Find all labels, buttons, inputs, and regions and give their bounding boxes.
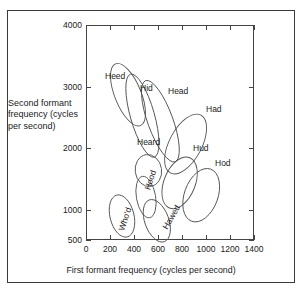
x-tick-label: 800 bbox=[175, 244, 189, 254]
vowel-formant-figure: Second formant frequency (cycles per sec… bbox=[0, 0, 306, 293]
y-axis-title: Second formant frequency (cycles per sec… bbox=[8, 98, 82, 132]
vowel-label-hid: Hid bbox=[140, 83, 153, 93]
y-tick bbox=[86, 87, 91, 88]
vowel-label-head: Head bbox=[168, 86, 188, 96]
y-tick bbox=[86, 210, 91, 211]
y-tick bbox=[249, 87, 254, 88]
x-tick bbox=[110, 235, 111, 240]
x-tick bbox=[206, 235, 207, 240]
y-tick bbox=[86, 240, 91, 241]
vowel-label-hod: Hod bbox=[215, 158, 231, 168]
y-tick bbox=[249, 240, 254, 241]
y-tick-label: 3000 bbox=[52, 82, 82, 92]
x-tick bbox=[182, 235, 183, 240]
x-tick bbox=[182, 25, 183, 30]
x-tick bbox=[230, 25, 231, 30]
x-tick-label: 1200 bbox=[221, 244, 240, 254]
y-tick bbox=[249, 148, 254, 149]
x-tick bbox=[158, 235, 159, 240]
x-tick-label: 600 bbox=[151, 244, 165, 254]
vowel-label-hud: Hud bbox=[193, 143, 209, 153]
x-tick-label: 1000 bbox=[197, 244, 216, 254]
vowel-label-heard: Heard bbox=[137, 137, 160, 147]
y-tick-label: 2000 bbox=[52, 143, 82, 153]
y-tick bbox=[249, 210, 254, 211]
y-tick bbox=[86, 25, 91, 26]
vowel-label-heed: Heed bbox=[105, 71, 125, 81]
x-tick bbox=[206, 25, 207, 30]
y-tick bbox=[249, 25, 254, 26]
x-tick bbox=[254, 235, 255, 240]
x-tick bbox=[110, 25, 111, 30]
x-tick bbox=[254, 25, 255, 30]
y-tick-label: 1000 bbox=[52, 205, 82, 215]
x-tick bbox=[134, 235, 135, 240]
x-tick bbox=[230, 235, 231, 240]
x-axis-title: First formant frequency (cycles per seco… bbox=[7, 265, 295, 275]
vowel-label-had: Had bbox=[206, 104, 222, 114]
x-tick-label: 0 bbox=[84, 244, 89, 254]
y-tick-label: 500 bbox=[52, 235, 82, 245]
y-tick-label: 4000 bbox=[52, 20, 82, 30]
x-tick bbox=[158, 25, 159, 30]
x-tick-label: 1400 bbox=[245, 244, 264, 254]
x-tick bbox=[134, 25, 135, 30]
x-tick-label: 200 bbox=[103, 244, 117, 254]
x-tick-label: 400 bbox=[127, 244, 141, 254]
y-tick bbox=[86, 148, 91, 149]
